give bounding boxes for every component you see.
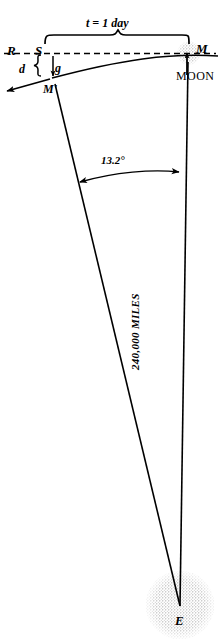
gravity-label-g: g bbox=[55, 62, 61, 74]
start-label-S: S bbox=[35, 44, 42, 57]
orbit-radius-label: 240,000 MILES bbox=[130, 293, 141, 370]
radius-line-moon-earth bbox=[180, 62, 188, 606]
moon-label-M: M bbox=[196, 42, 208, 55]
earth-label-E: E bbox=[175, 614, 184, 627]
fall-distance-label-d: d bbox=[19, 63, 25, 75]
time-brace bbox=[45, 30, 189, 44]
moon-orbit-diagram: R S M M' d g E MOON t = 1 day 13.2° 240,… bbox=[0, 0, 219, 642]
time-brace-label: t = 1 day bbox=[86, 17, 129, 29]
moon-body-label: MOON bbox=[176, 70, 214, 82]
angle-arc bbox=[80, 171, 179, 182]
fall-distance-brace bbox=[34, 55, 41, 76]
angle-label: 13.2° bbox=[101, 155, 125, 166]
tangent-line-label-R: R bbox=[7, 44, 16, 57]
fallen-moon-label-M-prime: M' bbox=[43, 83, 57, 95]
diagram-canvas bbox=[0, 0, 219, 642]
